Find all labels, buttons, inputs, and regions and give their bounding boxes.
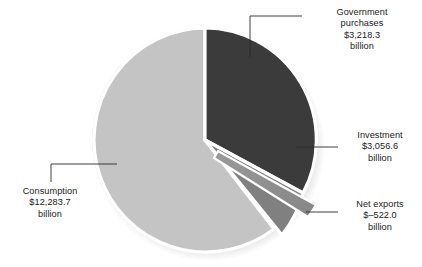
callout-investment-line1: Investment	[340, 130, 420, 141]
callout-consumption-unit: billion	[4, 209, 96, 220]
callout-government-line2: purchases	[307, 18, 417, 29]
callout-investment: Investment $3,056.6 billion	[340, 130, 420, 164]
callout-government-line1: Government	[307, 7, 417, 18]
callout-investment-unit: billion	[340, 153, 420, 164]
callout-consumption-value: $12,283.7	[4, 197, 96, 208]
callout-government-purchases: Government purchases $3,218.3 billion	[307, 7, 417, 53]
callout-net-exports-line1: Net exports	[340, 199, 420, 210]
callout-investment-value: $3,056.6	[340, 141, 420, 152]
callout-net-exports: Net exports $–522.0 billion	[340, 199, 420, 233]
callout-consumption: Consumption $12,283.7 billion	[4, 186, 96, 220]
pie-chart-figure: Government purchases $3,218.3 billion In…	[0, 0, 422, 267]
callout-net-exports-value: $–522.0	[340, 210, 420, 221]
callout-net-exports-unit: billion	[340, 222, 420, 233]
callout-government-unit: billion	[307, 41, 417, 52]
callout-government-value: $3,218.3	[307, 30, 417, 41]
callout-consumption-line1: Consumption	[4, 186, 96, 197]
